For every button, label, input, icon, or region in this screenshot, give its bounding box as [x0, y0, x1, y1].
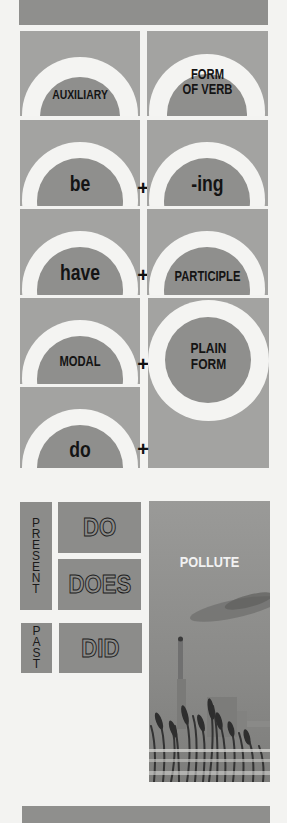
- factory-scene-illustration: [149, 501, 270, 782]
- row-modal-aux-cell: MODAL: [20, 298, 140, 384]
- row-do-aux-cell: do: [20, 387, 140, 468]
- past-did-box: DID: [59, 623, 142, 673]
- row-be-form-label: -ing: [159, 172, 256, 195]
- past-tense-tag: P A S T: [21, 623, 52, 673]
- bottom-bar: [22, 806, 270, 823]
- row-modal-aux-label: MODAL: [32, 354, 128, 369]
- plain-form-label: PLAIN FORM: [160, 340, 257, 372]
- present-does-box: DOES: [58, 559, 141, 610]
- pollution-photo: POLLUTE: [149, 501, 270, 782]
- row-do-aux-label: do: [32, 438, 128, 461]
- row-be-aux-cell: be: [20, 120, 140, 206]
- top-bar: [19, 0, 268, 25]
- plain-form-cell: PLAIN FORM: [148, 298, 269, 468]
- row-have-form-cell: PARTICIPLE: [147, 209, 268, 295]
- header-auxiliary-label: AUXILIARY: [32, 88, 128, 102]
- present-do-box: DO: [58, 502, 141, 553]
- plus-icon: +: [136, 439, 150, 459]
- header-auxiliary-cell: AUXILIARY: [20, 31, 140, 116]
- header-form-of-verb-label: FORM OF VERB: [159, 67, 256, 96]
- present-tense-tag: P R E S E N T: [20, 502, 52, 610]
- row-be-form-cell: -ing: [147, 120, 268, 206]
- row-have-aux-label: have: [32, 261, 128, 284]
- row-have-form-label: PARTICIPLE: [159, 269, 256, 284]
- row-have-aux-cell: have: [20, 209, 140, 295]
- row-be-aux-label: be: [32, 172, 128, 195]
- header-form-of-verb-cell: FORM OF VERB: [147, 31, 268, 116]
